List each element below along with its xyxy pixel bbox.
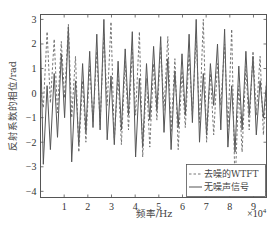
x-axis-multiplier: ×104 bbox=[247, 207, 267, 219]
x-tick-label: 6 bbox=[180, 201, 185, 212]
legend-label-noiseless: 无噪声信号 bbox=[204, 181, 249, 192]
x-tick-label: 8 bbox=[227, 201, 232, 212]
x-axis-label: 频率/Hz bbox=[136, 208, 173, 219]
series-noiseless-signal bbox=[41, 19, 267, 164]
plot-series bbox=[41, 19, 267, 189]
y-tick-label: 1 bbox=[32, 63, 37, 74]
y-tick-label: 0 bbox=[32, 88, 37, 99]
y-tick-label: −1 bbox=[26, 112, 37, 123]
legend: 去噪的WTFT 无噪声信号 bbox=[187, 165, 266, 197]
x-tick-label: 7 bbox=[204, 201, 209, 212]
x-tick-label: 1 bbox=[62, 201, 67, 212]
y-tick-label: 2 bbox=[32, 38, 37, 49]
y-axis-label: 反射系数的相位/rad bbox=[7, 61, 18, 151]
phase-line-chart: 123456789 3210−1−2−3−4 频率/Hz ×104 反射系数的相… bbox=[0, 0, 279, 232]
y-tick-label: −4 bbox=[26, 186, 37, 197]
y-tick-label: −2 bbox=[26, 137, 37, 148]
x-tick-label: 2 bbox=[85, 201, 90, 212]
legend-label-denoised: 去噪的WTFT bbox=[204, 168, 259, 179]
y-tick-label: −3 bbox=[26, 161, 37, 172]
y-tick-label: 3 bbox=[32, 14, 37, 25]
x-tick-label: 3 bbox=[109, 201, 114, 212]
